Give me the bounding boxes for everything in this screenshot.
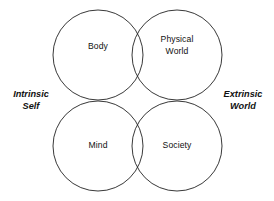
venn-circle-body (53, 10, 143, 100)
venn-axis-label-intrinsic-self: Intrinsic Self (13, 89, 49, 112)
venn-axis-label-extrinsic-world: Extrinsic World (224, 89, 263, 112)
venn-diagram: Body Physical World Mind Society Intrins… (0, 0, 274, 201)
venn-label-mind: Mind (88, 140, 107, 152)
venn-label-body: Body (88, 41, 108, 53)
venn-label-physical-world: Physical World (161, 34, 194, 57)
venn-label-society: Society (163, 140, 192, 152)
